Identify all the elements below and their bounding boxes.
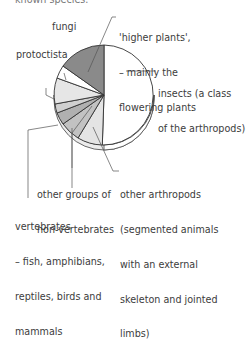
label-insects: insects (a class of the arthropods) [158,65,245,146]
label-fungi: fungi [52,21,76,33]
label-protoctista: protoctista [16,49,68,61]
label-vertebrates: vertebrates – fish, amphibians, reptiles… [15,198,105,343]
label-other-arthropods: other arthropods (segmented animals with… [120,166,218,343]
